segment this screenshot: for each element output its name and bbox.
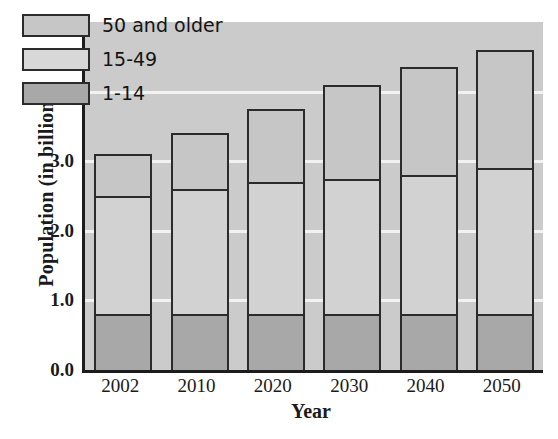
x-tick-label: 2010 xyxy=(178,375,216,397)
chart-figure: Population (in billions) 0.01.02.03.04.0… xyxy=(0,0,558,439)
bar-segment-1-14 xyxy=(400,314,458,370)
legend-swatch xyxy=(22,14,90,37)
bar-segment-15-49 xyxy=(171,189,229,314)
x-tick-label: 2040 xyxy=(407,375,445,397)
bar-segment-50-and-older xyxy=(476,50,534,168)
x-tick-label: 2002 xyxy=(101,375,139,397)
bar-segment-1-14 xyxy=(323,314,381,370)
legend-item: 15-49 xyxy=(22,42,222,76)
bar-segment-50-and-older xyxy=(323,85,381,179)
stacked-bar xyxy=(323,85,381,370)
legend: 50 and older15-491-14 xyxy=(22,8,222,110)
x-axis-title: Year xyxy=(82,400,540,423)
y-tick-label: 0.0 xyxy=(10,359,74,381)
bar-segment-50-and-older xyxy=(247,109,305,182)
stacked-bar xyxy=(400,67,458,370)
legend-label: 50 and older xyxy=(102,14,222,36)
bar-segment-1-14 xyxy=(247,314,305,370)
bar-segment-1-14 xyxy=(171,314,229,370)
y-tick-label: 1.0 xyxy=(10,289,74,311)
bar-segment-50-and-older xyxy=(171,133,229,189)
stacked-bar xyxy=(247,109,305,370)
bar-segment-1-14 xyxy=(476,314,534,370)
gridline xyxy=(85,299,543,302)
legend-item: 1-14 xyxy=(22,76,222,110)
stacked-bar xyxy=(476,50,534,370)
y-tick-label: 3.0 xyxy=(10,150,74,172)
legend-label: 1-14 xyxy=(102,82,145,104)
stacked-bar xyxy=(94,154,152,370)
bar-segment-50-and-older xyxy=(94,154,152,196)
gridline xyxy=(85,160,543,163)
bar-segment-50-and-older xyxy=(400,67,458,175)
bar-segment-15-49 xyxy=(247,182,305,314)
bar-segment-15-49 xyxy=(94,196,152,314)
bar-segment-1-14 xyxy=(94,314,152,370)
legend-swatch xyxy=(22,48,90,71)
bar-segment-15-49 xyxy=(400,175,458,314)
x-tick-label: 2030 xyxy=(330,375,368,397)
legend-swatch xyxy=(22,82,90,105)
y-tick-label: 2.0 xyxy=(10,220,74,242)
x-tick-label: 2050 xyxy=(483,375,521,397)
x-tick-label: 2020 xyxy=(254,375,292,397)
stacked-bar xyxy=(171,133,229,370)
bar-segment-15-49 xyxy=(476,168,534,314)
legend-label: 15-49 xyxy=(102,48,157,70)
legend-item: 50 and older xyxy=(22,8,222,42)
gridline xyxy=(85,230,543,233)
bar-segment-15-49 xyxy=(323,179,381,315)
